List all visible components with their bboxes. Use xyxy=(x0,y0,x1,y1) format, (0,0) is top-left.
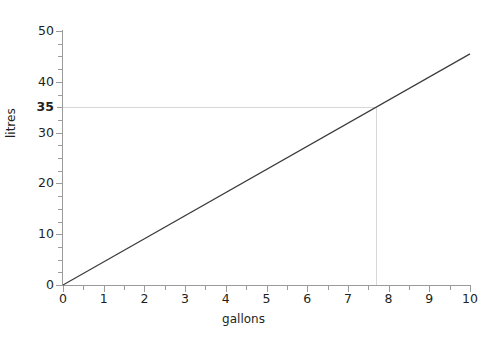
chart-series-layer xyxy=(0,0,487,337)
y-axis-title: litres xyxy=(4,108,18,138)
x-axis-title: gallons xyxy=(0,312,487,326)
chart-line-series xyxy=(63,54,470,285)
